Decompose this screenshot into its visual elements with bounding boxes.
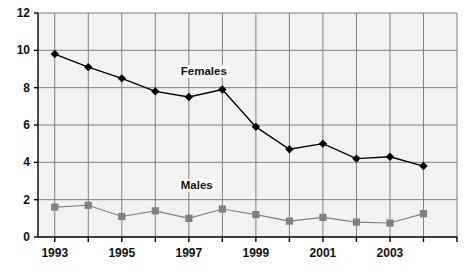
x-tick-label-1997: 1997	[175, 247, 202, 259]
x-tick-label-1999: 1999	[243, 247, 270, 259]
data-point-males-1995	[118, 213, 125, 220]
data-point-males-2002	[353, 218, 360, 225]
x-tick-label-1993: 1993	[41, 247, 68, 259]
data-point-males-2000	[286, 218, 293, 225]
data-point-males-1994	[85, 202, 92, 209]
chart-plot-area	[0, 0, 472, 278]
series-label-females: Females	[179, 65, 229, 79]
y-tick-label-2: 2	[0, 194, 30, 206]
data-point-males-1993	[51, 204, 58, 211]
x-tick-label-2003: 2003	[377, 247, 404, 259]
y-tick-label-12: 12	[0, 7, 30, 19]
data-point-males-1999	[252, 211, 259, 218]
data-point-males-1997	[185, 215, 192, 222]
data-point-males-2003	[386, 219, 393, 226]
series-label-males: Males	[179, 179, 215, 193]
y-tick-label-4: 4	[0, 156, 30, 168]
data-point-males-1998	[219, 205, 226, 212]
y-tick-label-6: 6	[0, 119, 30, 131]
data-point-males-2001	[319, 214, 326, 221]
x-tick-label-2001: 2001	[310, 247, 337, 259]
y-tick-label-8: 8	[0, 82, 30, 94]
data-point-males-1996	[152, 207, 159, 214]
data-point-males-2004	[420, 210, 427, 217]
x-tick-label-1995: 1995	[108, 247, 135, 259]
y-tick-label-10: 10	[0, 44, 30, 56]
y-tick-label-0: 0	[0, 231, 30, 243]
line-chart: 024681012 199319951997199920012003 Femal…	[0, 0, 472, 278]
